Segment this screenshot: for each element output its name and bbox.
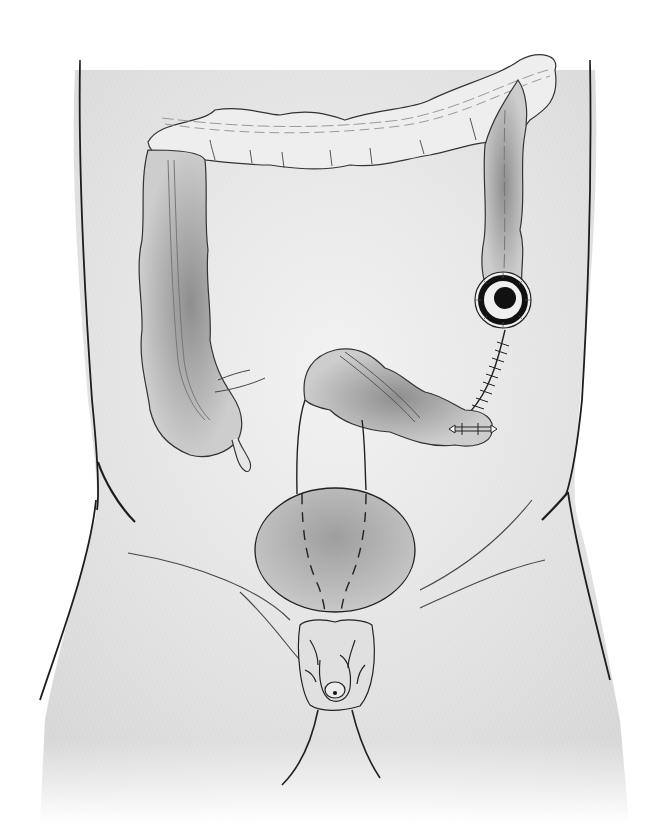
bladder (255, 488, 415, 612)
colostomy-illustration (0, 0, 669, 823)
stoma (475, 272, 531, 328)
